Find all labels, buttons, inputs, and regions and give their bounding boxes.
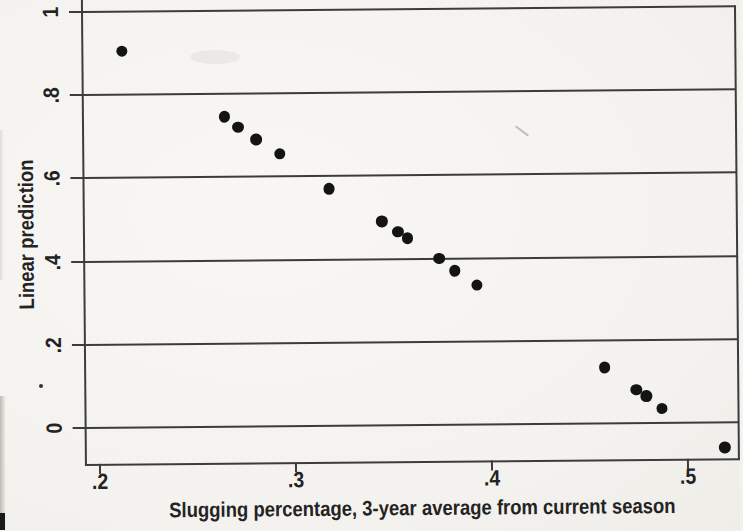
y-tick-label: .6	[41, 170, 63, 186]
x-axis-title: Slugging percentage, 3-year average from…	[169, 495, 675, 520]
scan-gutter-shadow-upper	[0, 130, 4, 280]
y-tick-label: 0	[44, 423, 66, 434]
y-axis-title: Linear prediction	[15, 159, 37, 309]
y-gridline	[83, 172, 736, 180]
scan-corner-mark	[0, 513, 5, 530]
data-point	[402, 232, 414, 244]
y-tick-mark	[73, 427, 86, 429]
data-point	[116, 45, 128, 57]
data-point	[232, 121, 244, 133]
data-point	[640, 390, 652, 402]
x-tick-label: .5	[680, 466, 696, 488]
data-point	[250, 134, 262, 146]
scan-smudge	[190, 50, 240, 64]
y-tick-mark	[70, 94, 83, 96]
y-tick-mark	[70, 177, 83, 179]
data-point	[219, 111, 231, 123]
y-tick-mark	[72, 344, 85, 346]
y-axis-line	[81, 0, 87, 465]
data-point	[376, 216, 388, 228]
y-tick-label: .8	[41, 87, 63, 103]
data-point	[656, 403, 668, 415]
y-gridline	[84, 255, 737, 263]
data-point	[599, 361, 611, 373]
y-gridline	[86, 421, 739, 429]
chart: 0.2.4.6.81.2.3.4.5 Linear prediction Slu…	[0, 0, 743, 531]
data-point	[433, 253, 445, 265]
y-gridline	[85, 338, 738, 346]
y-tick-label: .4	[42, 254, 64, 270]
data-point	[719, 442, 731, 454]
data-point	[471, 279, 483, 291]
y-gridline	[83, 88, 736, 96]
scan-gutter-shadow	[0, 396, 6, 530]
x-axis-line	[85, 458, 740, 466]
data-point	[323, 183, 335, 195]
y-tick-label: 1	[40, 7, 62, 18]
x-tick-label: .2	[92, 471, 108, 493]
data-point	[449, 265, 461, 277]
x-tick-label: .4	[484, 467, 500, 489]
plot-region: 0.2.4.6.81.2.3.4.5	[0, 0, 743, 531]
y-gridline	[82, 5, 735, 13]
y-tick-mark	[71, 261, 84, 263]
y-tick-label: .2	[43, 337, 65, 353]
data-point	[274, 148, 286, 160]
x-tick-label: .3	[288, 469, 304, 491]
scan-speck	[39, 384, 43, 388]
y-tick-mark	[69, 11, 82, 13]
plot-right-border	[734, 5, 740, 459]
